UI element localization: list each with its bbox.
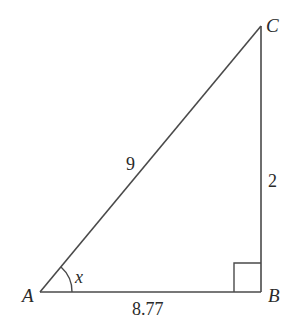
side-label-ac: 9	[126, 155, 135, 173]
side-label-bc: 2	[268, 172, 277, 190]
angle-label-x: x	[75, 268, 83, 286]
right-angle-marker	[234, 263, 261, 292]
triangle-figure	[0, 0, 291, 333]
triangle-diagram: A B C 9 2 8.77 x	[0, 0, 291, 333]
angle-arc-x	[61, 267, 72, 292]
side-label-ab: 8.77	[132, 300, 164, 318]
vertex-label-a: A	[22, 286, 34, 305]
side-ac	[40, 26, 261, 292]
vertex-label-c: C	[266, 16, 279, 35]
vertex-label-b: B	[268, 286, 280, 305]
